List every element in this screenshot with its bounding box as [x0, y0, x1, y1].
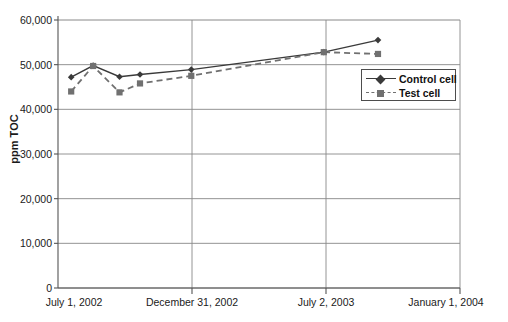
chart-container: ppm TOC 010,00020,00030,00040,00050,0006… — [0, 0, 508, 322]
data-point-marker — [375, 37, 382, 44]
data-point-marker — [188, 66, 195, 73]
data-point-marker — [116, 89, 122, 95]
plot-area — [0, 0, 508, 322]
data-point-marker — [375, 51, 381, 57]
legend-item-test-cell: Test cell — [366, 86, 440, 100]
diamond-marker-icon — [366, 74, 396, 84]
legend-label-test-cell: Test cell — [399, 87, 440, 99]
data-point-marker — [137, 80, 143, 86]
series-line — [71, 40, 378, 77]
data-point-marker — [321, 49, 327, 55]
data-point-marker — [68, 88, 74, 94]
data-point-marker — [68, 74, 75, 81]
series-line — [71, 52, 378, 92]
data-point-marker — [116, 73, 123, 80]
data-point-marker — [90, 63, 96, 69]
legend-label-control-cell: Control cell — [399, 73, 457, 85]
chart-legend: Control cell Test cell — [361, 69, 456, 101]
data-point-marker — [137, 71, 144, 78]
legend-item-control-cell: Control cell — [366, 72, 457, 86]
data-point-marker — [188, 73, 194, 79]
square-marker-icon — [366, 88, 396, 98]
